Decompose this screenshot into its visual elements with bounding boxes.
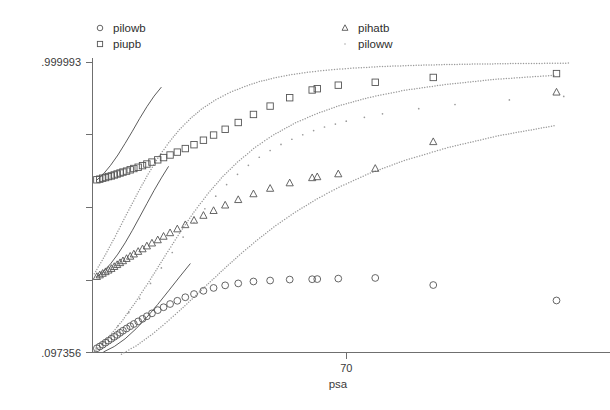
curve-dot — [379, 66, 381, 68]
curve-dot — [439, 149, 441, 151]
curve-dot — [160, 262, 162, 264]
curve-dot — [317, 113, 319, 115]
curve-dot — [169, 248, 171, 250]
curve-dot — [271, 228, 273, 230]
curve-dot — [306, 205, 308, 207]
chart-page: pilowbpiupbpihatbpiloww .999993.097356 7… — [0, 0, 610, 410]
curve-dot — [477, 63, 479, 65]
curve-dot — [284, 128, 286, 130]
curve-dot — [326, 193, 328, 195]
curve-dot — [341, 185, 343, 187]
curve-dot — [331, 190, 333, 192]
curve-dot — [256, 82, 258, 84]
curve-dot — [343, 184, 345, 186]
curve-dot — [253, 148, 255, 150]
data-point-dot — [454, 104, 456, 106]
curve-dot — [172, 244, 174, 246]
curve-dot — [128, 349, 130, 351]
data-point-dot — [313, 130, 315, 132]
curve-dot — [99, 264, 101, 266]
curve-dot — [273, 226, 275, 228]
curve-dot — [286, 75, 288, 77]
curve-dot — [367, 97, 369, 99]
curve-dot — [94, 273, 96, 275]
curve-dot — [557, 62, 559, 64]
curve-dot — [390, 65, 392, 67]
curve-dot — [450, 146, 452, 148]
curve-dot — [342, 68, 344, 70]
curve-dot — [266, 139, 268, 141]
curve-dot — [119, 323, 121, 325]
curve-dot — [307, 117, 309, 119]
curve-dot — [529, 76, 531, 78]
curve-dot — [130, 348, 132, 350]
curve-dot — [182, 307, 184, 309]
curve-dot — [245, 155, 247, 157]
curve-dot — [353, 101, 355, 103]
curve-dot — [124, 317, 126, 319]
curve-dot — [548, 126, 550, 128]
curve-dot — [490, 79, 492, 81]
curve-dot — [521, 77, 523, 79]
curve-dot — [400, 65, 402, 67]
curve-dot — [375, 95, 377, 97]
curve-dot — [387, 166, 389, 168]
curve-dot — [455, 145, 457, 147]
curve-dot — [324, 194, 326, 196]
curve-dot — [393, 92, 395, 94]
curve-dot — [507, 63, 509, 64]
curve-dot — [174, 239, 176, 241]
curve-dot — [166, 321, 168, 323]
curve-dot — [139, 189, 141, 191]
curve-dot — [207, 104, 209, 106]
curve-dot — [369, 66, 371, 68]
curve-dot — [467, 63, 469, 65]
curve-dot — [472, 63, 474, 65]
curve-dot — [239, 88, 241, 90]
curve-dot — [358, 178, 360, 180]
curve-dot — [535, 76, 537, 78]
curve-dot — [196, 207, 198, 209]
curve-dot — [177, 312, 179, 314]
curve-dot — [160, 326, 162, 328]
curve-dot — [174, 134, 176, 136]
data-point-dot — [117, 325, 119, 327]
curve-dot — [531, 129, 533, 131]
curve-dot — [106, 251, 108, 253]
curve-dot — [189, 218, 191, 220]
curve-dot — [460, 82, 462, 84]
curve-dot — [201, 109, 203, 111]
curve-dot — [231, 167, 233, 169]
curve-dot — [365, 98, 367, 100]
curve-dot — [127, 313, 129, 315]
curve-dot — [299, 209, 301, 211]
curve-dot — [163, 149, 165, 151]
curve-dot — [120, 226, 122, 228]
curve-dot — [365, 174, 367, 176]
curve-dot — [439, 85, 441, 87]
curve-dot — [128, 209, 130, 211]
curve-dot — [116, 233, 118, 235]
curve-dot — [404, 90, 406, 92]
curve-dot — [447, 83, 449, 85]
curve-dot — [409, 89, 411, 91]
curve-dot — [228, 170, 230, 172]
curve-dot — [411, 157, 413, 159]
curve-dot — [242, 87, 244, 89]
curve-dot — [135, 301, 137, 303]
curve-dot — [317, 70, 319, 72]
curve-dot — [263, 234, 265, 236]
curve-dot — [268, 79, 270, 81]
curve-dot — [154, 331, 156, 333]
curve-dot — [362, 175, 364, 177]
curve-dot — [100, 262, 102, 264]
curve-dot — [230, 263, 232, 265]
data-point-dot — [95, 347, 97, 349]
curve-dot — [107, 249, 109, 251]
curve-dot — [246, 85, 248, 87]
curve-dot — [409, 158, 411, 160]
curve-dot — [494, 63, 496, 65]
curve-dot — [384, 66, 386, 68]
data-point-dot — [150, 283, 152, 285]
curve-dot — [181, 308, 183, 310]
